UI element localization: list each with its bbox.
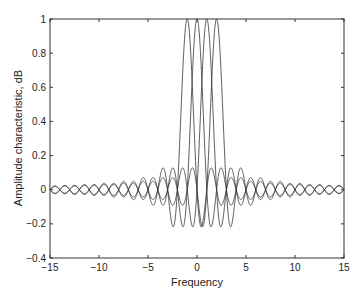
y-tick-label: −0.2 (26, 218, 46, 229)
x-axis-ticks: −15−10−5051015 (42, 19, 350, 273)
x-tick-label: −15 (42, 262, 59, 273)
x-tick-label: 10 (289, 262, 301, 273)
x-tick-label: −10 (91, 262, 108, 273)
plot-frame (50, 19, 344, 258)
y-tick-label: −0.4 (26, 253, 46, 264)
y-tick-label: 0 (40, 184, 46, 195)
x-tick-label: 15 (338, 262, 350, 273)
x-tick-label: −5 (142, 262, 154, 273)
y-tick-label: 0.6 (32, 82, 46, 93)
plot-lines (50, 19, 344, 227)
y-tick-label: 0.8 (32, 48, 46, 59)
y-tick-label: 1 (40, 14, 46, 25)
y-tick-label: 0.4 (32, 116, 46, 127)
x-tick-label: 5 (243, 262, 249, 273)
x-tick-label: 0 (194, 262, 200, 273)
y-tick-label: 0.2 (32, 150, 46, 161)
chart: −15−10−5051015 −0.4−0.200.20.40.60.81 Fr… (0, 0, 364, 299)
x-axis-label: Frequency (171, 276, 223, 288)
y-axis-ticks: −0.4−0.200.20.40.60.81 (26, 14, 344, 264)
y-axis-label: Amplitude characteristic, dB (12, 70, 24, 206)
